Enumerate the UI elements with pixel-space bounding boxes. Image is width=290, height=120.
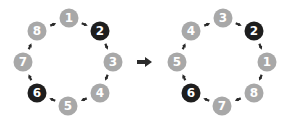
node-label: 6 [187,86,195,100]
ring-node: 3 [214,9,233,28]
cycle-arrow-icon [51,99,55,101]
node-label: 8 [250,86,258,100]
cycle-arrow-icon [106,75,108,79]
ring-node: 4 [91,84,110,103]
ring-node: 8 [28,22,47,41]
node-label: 2 [96,24,104,38]
node-label: 3 [109,55,117,69]
cycle-arrow-icon [83,98,87,100]
ring-node: 1 [258,53,277,72]
ring-node: 7 [14,53,33,72]
node-label: 1 [65,11,73,25]
cycle-arrow-icon [29,76,31,80]
left-ring: 12345678 [14,9,123,116]
cycle-arrow-icon [260,75,262,79]
node-label: 1 [263,55,271,69]
cycle-arrow-icon [205,99,209,101]
node-label: 4 [187,24,195,38]
ring-node: 5 [59,97,78,116]
cycle-arrow-icon [183,76,185,80]
cycle-arrow-icon [204,24,208,26]
node-label: 7 [19,55,27,69]
ring-node: 2 [91,22,110,41]
cycle-arrow-icon [82,23,86,25]
ring-node: 5 [168,53,187,72]
cycle-arrow-icon [29,45,31,49]
cycle-arrow-icon [183,45,185,49]
node-label: 3 [219,11,227,25]
ring-node: 3 [104,53,123,72]
ring-node: 4 [182,22,201,41]
node-label: 6 [33,86,41,100]
ring-node: 8 [245,84,264,103]
ring-node: 6 [28,84,47,103]
cycle-arrow-icon [236,23,240,25]
ring-rotation-diagram: 12345678 32187654 [0,0,290,120]
cycle-arrow-icon [259,44,261,48]
ring-node: 7 [213,97,232,116]
node-label: 4 [96,86,104,100]
node-label: 8 [33,24,41,38]
cycle-arrow-icon [105,44,107,48]
ring-node: 6 [182,84,201,103]
ring-node: 2 [245,22,264,41]
node-label: 5 [173,55,181,69]
transform-arrow-icon [137,57,152,67]
cycle-arrow-icon [237,98,241,100]
cycle-arrow-icon [50,24,54,26]
node-label: 7 [218,99,226,113]
node-label: 5 [64,99,72,113]
node-label: 2 [250,24,258,38]
ring-node: 1 [60,9,79,28]
right-ring: 32187654 [168,9,277,116]
